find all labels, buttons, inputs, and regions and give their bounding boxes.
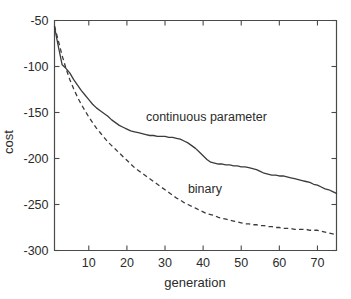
axes-group (55, 21, 337, 251)
y-tick-label--100: -100 (23, 60, 48, 74)
x-tick-label-20: 20 (120, 256, 134, 270)
series-line-binary (55, 26, 337, 235)
x-tick-label-70: 70 (310, 256, 324, 270)
y-tick-label--300: -300 (23, 244, 48, 258)
series-label-continuous-parameter: continuous parameter (146, 110, 267, 124)
x-tick-label-10: 10 (82, 256, 96, 270)
plot-box (55, 21, 337, 251)
y-tick-label--200: -200 (23, 152, 48, 166)
x-tick-label-30: 30 (158, 256, 172, 270)
y-tick-label--50: -50 (30, 14, 48, 28)
tick-marks-group (55, 21, 337, 251)
y-tick-label--250: -250 (23, 198, 48, 212)
series-annotations-group: continuous parameterbinary (146, 110, 267, 197)
chart-figure: -50-100-150-200-250-30010203040506070 co… (0, 0, 351, 299)
tick-labels-group: -50-100-150-200-250-30010203040506070 (23, 14, 324, 270)
line-chart: -50-100-150-200-250-30010203040506070 co… (0, 0, 351, 299)
data-series-group (55, 26, 337, 235)
y-tick-label--150: -150 (23, 106, 48, 120)
x-tick-label-40: 40 (196, 256, 210, 270)
x-tick-label-60: 60 (272, 256, 286, 270)
series-label-binary: binary (188, 182, 223, 196)
y-axis-title: cost (1, 130, 16, 154)
x-tick-label-50: 50 (234, 256, 248, 270)
x-axis-title: generation (164, 275, 225, 290)
